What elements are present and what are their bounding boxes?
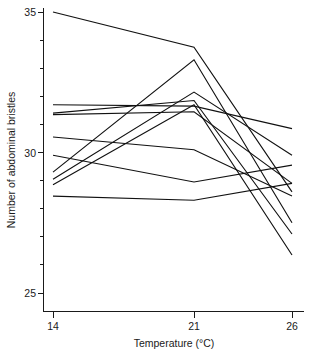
y-tick-label: 30 <box>24 147 36 159</box>
x-tick-label: 21 <box>188 320 200 332</box>
y-tick-label: 25 <box>24 287 36 299</box>
x-axis-ticks <box>53 312 292 318</box>
x-tick-label: 26 <box>286 320 298 332</box>
x-axis-title: Temperature (°C) <box>134 337 215 349</box>
series-line <box>53 137 292 196</box>
series-line <box>53 60 292 223</box>
series-line <box>53 105 292 255</box>
x-axis-tick-labels: 142126 <box>47 320 298 332</box>
y-axis-title: Number of abdominal bristles <box>5 92 17 229</box>
x-tick-label: 14 <box>47 320 59 332</box>
series-line <box>53 155 292 182</box>
reaction-norm-chart: 253035 142126 Temperature (°C) Number of… <box>0 0 313 353</box>
chart-canvas: 253035 142126 Temperature (°C) Number of… <box>0 0 313 353</box>
y-axis-ticks <box>38 12 44 293</box>
data-series-group <box>53 12 292 255</box>
y-tick-label: 35 <box>24 6 36 18</box>
y-axis-tick-labels: 253035 <box>24 6 36 299</box>
